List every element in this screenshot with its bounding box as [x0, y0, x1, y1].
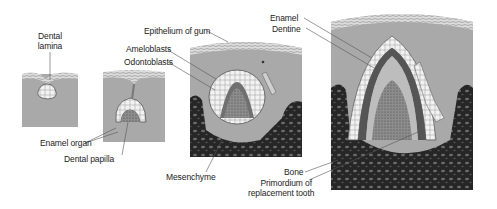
label-primordium: Primordium of replacement tooth: [248, 178, 312, 198]
label-primordium-line2: replacement tooth: [248, 188, 312, 198]
label-dental-lamina: Dental lamina: [33, 31, 67, 51]
stage-4-panel: [331, 14, 473, 190]
label-enamel: Enamel: [270, 13, 298, 23]
label-dental-papilla: Dental papilla: [64, 154, 114, 164]
stage-1-panel: [22, 73, 78, 128]
label-mesenchyme: Mesenchyme: [166, 172, 216, 182]
label-odontoblasts: Odontoblasts: [124, 57, 173, 67]
label-enamel-organ: Enamel organ: [40, 138, 92, 148]
label-epithelium-of-gum: Epithelium of gum: [144, 26, 210, 36]
label-dentine: Dentine: [272, 24, 301, 34]
stage-3-panel: [190, 42, 302, 157]
label-dental-lamina-line1: Dental: [33, 31, 67, 41]
tooth-development-diagram: Dental lamina Enamel organ Dental papill…: [0, 0, 497, 209]
label-ameloblasts: Ameloblasts: [126, 44, 171, 54]
label-dental-lamina-line2: lamina: [33, 41, 67, 51]
stage-2-panel: [103, 70, 165, 142]
label-bone: Bone: [284, 167, 303, 177]
label-primordium-line1: Primordium of: [248, 178, 312, 188]
